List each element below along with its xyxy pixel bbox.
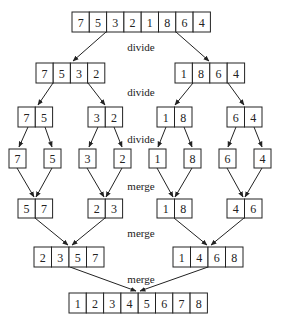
array-m1-c: 18	[157, 199, 192, 218]
array-root: 75321864	[72, 12, 210, 32]
array-value: 2	[93, 67, 99, 81]
array-value: 1	[179, 251, 185, 265]
array-d2-c: 18	[157, 107, 192, 127]
array-value: 5	[24, 202, 30, 216]
array-value: 2	[40, 251, 46, 265]
array-value: 4	[233, 202, 239, 216]
array-value: 8	[164, 16, 170, 30]
array-value: 3	[57, 251, 63, 265]
label-divide-1: divide	[127, 41, 155, 53]
label-divide-3: divide	[127, 133, 155, 145]
array-leaf-6: 8	[184, 149, 201, 168]
array-value: 5	[41, 111, 47, 125]
array-value: 7	[179, 297, 185, 311]
array-value: 3	[111, 202, 117, 216]
label-divide-2: divide	[127, 86, 155, 98]
array-m2-right: 1468	[173, 247, 243, 267]
array-leaf-5: 1	[149, 149, 166, 168]
array-d2-d: 64	[227, 107, 262, 127]
array-value: 7	[15, 152, 21, 166]
array-value: 7	[42, 67, 48, 81]
array-value: 4	[233, 67, 239, 81]
array-value: 5	[75, 251, 81, 265]
array-value: 1	[75, 297, 81, 311]
array-m1-a: 57	[18, 199, 53, 218]
array-leaf-8: 4	[254, 149, 271, 168]
array-value: 6	[214, 251, 220, 265]
array-value: 6	[161, 297, 167, 311]
array-value: 8	[198, 67, 204, 81]
array-value: 1	[147, 16, 153, 30]
array-value: 4	[250, 111, 256, 125]
array-value: 5	[59, 67, 65, 81]
array-value: 6	[225, 152, 231, 166]
array-value: 3	[109, 297, 115, 311]
array-value: 3	[85, 152, 91, 166]
array-leaf-7: 6	[219, 149, 236, 168]
array-value: 3	[76, 67, 82, 81]
array-value: 4	[127, 297, 133, 311]
label-merge-3: merge	[127, 273, 154, 285]
array-value: 1	[155, 152, 161, 166]
array-value: 5	[144, 297, 150, 311]
array-value: 5	[95, 16, 101, 30]
array-value: 2	[130, 16, 136, 30]
array-value: 3	[112, 16, 118, 30]
array-value: 6	[182, 16, 188, 30]
array-value: 8	[196, 297, 202, 311]
array-m2-left: 2357	[34, 247, 104, 267]
array-leaf-3: 3	[79, 149, 96, 168]
array-leaf-1: 7	[9, 149, 26, 168]
array-value: 6	[233, 111, 239, 125]
array-value: 1	[163, 202, 169, 216]
array-d1-left: 7532	[36, 63, 105, 83]
array-value: 2	[94, 202, 100, 216]
array-value: 8	[231, 251, 237, 265]
array-value: 5	[50, 152, 56, 166]
array-value: 1	[181, 67, 187, 81]
array-value: 8	[180, 202, 186, 216]
array-d2-b: 32	[88, 107, 123, 127]
array-value: 3	[94, 111, 100, 125]
array-value: 6	[216, 67, 222, 81]
label-merge-2: merge	[127, 227, 154, 239]
array-leaf-2: 5	[44, 149, 61, 168]
array-leaf-4: 2	[114, 149, 131, 168]
array-d2-a: 75	[18, 107, 53, 127]
array-value: 8	[180, 111, 186, 125]
array-m1-d: 46	[227, 199, 262, 218]
arrays: 7532186475321864753218645723184623571468…	[9, 12, 271, 313]
array-value: 2	[120, 152, 126, 166]
merge-sort-diagram: divide divide divide merge merge merge 7…	[0, 0, 283, 323]
array-m1-b: 23	[88, 199, 123, 218]
array-value: 8	[190, 152, 196, 166]
array-value: 4	[260, 152, 266, 166]
array-value: 6	[250, 202, 256, 216]
array-d1-right: 1864	[175, 63, 245, 83]
array-value: 4	[199, 16, 205, 30]
array-value: 2	[92, 297, 98, 311]
array-value: 2	[111, 111, 117, 125]
array-result: 12345678	[69, 293, 207, 313]
array-value: 4	[196, 251, 202, 265]
array-value: 7	[24, 111, 30, 125]
array-value: 1	[163, 111, 169, 125]
label-merge-1: merge	[127, 180, 154, 192]
array-value: 7	[41, 202, 47, 216]
array-value: 7	[78, 16, 84, 30]
array-value: 7	[92, 251, 98, 265]
